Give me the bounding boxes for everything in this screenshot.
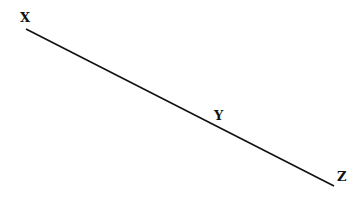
line-segment-xz: [26, 29, 334, 186]
point-label-z: Z: [337, 169, 347, 184]
point-label-x: X: [20, 10, 31, 25]
diagram-canvas: X Y Z: [0, 0, 364, 199]
point-label-y: Y: [213, 108, 224, 123]
